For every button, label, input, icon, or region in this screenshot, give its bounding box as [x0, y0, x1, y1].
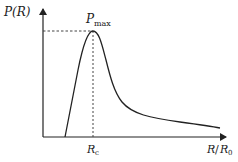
pmax-label: P max — [85, 12, 111, 28]
svg-text:R: R — [86, 143, 95, 156]
diagram-canvas: P(R) P max R c R / R 0 — [0, 0, 238, 162]
y-axis-label: P(R) — [3, 5, 31, 19]
svg-text:c: c — [95, 149, 99, 157]
svg-text:R: R — [206, 143, 215, 156]
rc-label: R c — [86, 143, 99, 157]
svg-text:/: / — [215, 143, 219, 156]
probability-curve — [65, 31, 220, 137]
svg-text:0: 0 — [228, 149, 232, 157]
svg-text:R: R — [219, 143, 228, 156]
x-axis-label: R / R 0 — [206, 143, 232, 157]
svg-text:max: max — [94, 19, 111, 28]
